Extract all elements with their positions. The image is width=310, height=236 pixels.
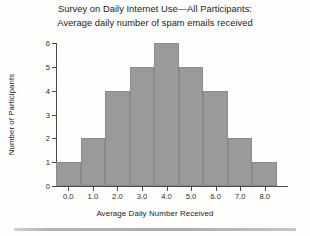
bar [228, 138, 253, 186]
x-tick-label: 7.0 [235, 192, 246, 201]
x-tick-label: 8.0 [259, 192, 270, 201]
bar [252, 162, 277, 186]
x-tick-mark [191, 186, 192, 191]
x-tick-mark [167, 186, 168, 191]
x-tick-label: 2.0 [112, 192, 123, 201]
bar [81, 138, 106, 186]
chart-title-line-2: Average daily number of spam emails rece… [0, 17, 310, 31]
x-tick-label: 3.0 [137, 192, 148, 201]
chart-title: Survey on Daily Internet Use—All Partici… [0, 3, 310, 30]
y-tick-label: 5 [46, 62, 50, 71]
plot-area: 0123456 [56, 43, 277, 186]
chart-title-line-1: Survey on Daily Internet Use—All Partici… [0, 3, 310, 17]
x-tick-label: 4.0 [161, 192, 172, 201]
y-axis-title: Number of Participants [6, 43, 18, 186]
x-tick-label: 0.0 [63, 192, 74, 201]
x-tick-mark [265, 186, 266, 191]
x-tick-mark [93, 186, 94, 191]
x-tick-label: 6.0 [210, 192, 221, 201]
bar-series [56, 43, 277, 186]
y-tick-label: 2 [46, 134, 50, 143]
bar [154, 43, 179, 186]
y-axis-title-label: Number of Participants [8, 74, 17, 156]
x-tick-mark [240, 186, 241, 191]
y-tick-label: 4 [46, 86, 50, 95]
y-tick-label: 0 [46, 182, 50, 191]
bar [105, 91, 130, 186]
x-tick-label: 5.0 [186, 192, 197, 201]
x-tick-mark [142, 186, 143, 191]
page-rule [14, 228, 296, 231]
bar [203, 91, 228, 186]
y-tick-mark [52, 186, 56, 187]
y-tick-label: 1 [46, 158, 50, 167]
bar [56, 162, 81, 186]
x-tick-mark [117, 186, 118, 191]
x-tick-label: 1.0 [88, 192, 99, 201]
y-tick-label: 6 [46, 39, 50, 48]
bar [130, 67, 155, 186]
x-axis-title: Average Daily Number Received [0, 209, 310, 218]
x-tick-mark [216, 186, 217, 191]
x-tick-mark [68, 186, 69, 191]
bar [179, 67, 204, 186]
y-tick-label: 3 [46, 110, 50, 119]
x-axis-line [56, 186, 288, 187]
chart-figure: Survey on Daily Internet Use—All Partici… [0, 0, 310, 236]
